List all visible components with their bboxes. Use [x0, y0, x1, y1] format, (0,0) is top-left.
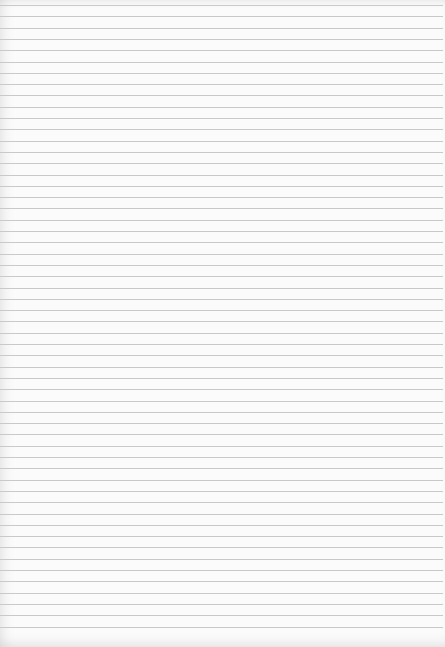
ruled-line: [0, 288, 443, 289]
ruled-line: [0, 276, 443, 277]
ruled-line: [0, 163, 443, 164]
lined-paper: [0, 0, 445, 647]
ruled-line: [0, 412, 443, 413]
ruled-line: [0, 615, 443, 616]
ruled-line: [0, 39, 443, 40]
ruled-line: [0, 423, 443, 424]
ruled-line: [0, 604, 443, 605]
ruled-line: [0, 525, 443, 526]
ruled-line: [0, 333, 443, 334]
ruled-line: [0, 321, 443, 322]
ruled-line: [0, 480, 443, 481]
ruled-line: [0, 84, 443, 85]
ruled-line: [0, 265, 443, 266]
ruled-line: [0, 457, 443, 458]
ruled-line: [0, 254, 443, 255]
ruled-line: [0, 367, 443, 368]
ruled-line: [0, 570, 443, 571]
ruled-line: [0, 220, 443, 221]
ruled-line: [0, 593, 443, 594]
ruled-line: [0, 107, 443, 108]
ruled-line: [0, 231, 443, 232]
ruled-line: [0, 118, 443, 119]
ruled-line: [0, 434, 443, 435]
ruled-line: [0, 175, 443, 176]
ruled-line: [0, 491, 443, 492]
ruled-line: [0, 547, 443, 548]
ruled-line: [0, 514, 443, 515]
ruled-line: [0, 468, 443, 469]
ruled-line: [0, 446, 443, 447]
ruled-line: [0, 401, 443, 402]
ruled-line: [0, 344, 443, 345]
ruled-line: [0, 310, 443, 311]
ruled-line: [0, 95, 443, 96]
ruled-line: [0, 559, 443, 560]
ruled-line: [0, 28, 443, 29]
ruled-line: [0, 62, 443, 63]
ruled-line: [0, 141, 443, 142]
ruled-line: [0, 129, 443, 130]
ruled-line: [0, 502, 443, 503]
ruled-line: [0, 581, 443, 582]
ruled-line: [0, 73, 443, 74]
ruled-line: [0, 536, 443, 537]
ruled-line: [0, 355, 443, 356]
ruled-line: [0, 50, 443, 51]
ruled-line: [0, 5, 443, 6]
ruled-line: [0, 152, 443, 153]
ruled-line: [0, 627, 443, 628]
ruled-line: [0, 389, 443, 390]
ruled-line: [0, 208, 443, 209]
ruled-line: [0, 242, 443, 243]
ruled-line: [0, 197, 443, 198]
ruled-line: [0, 378, 443, 379]
ruled-line: [0, 186, 443, 187]
ruled-line: [0, 16, 443, 17]
ruled-line: [0, 299, 443, 300]
